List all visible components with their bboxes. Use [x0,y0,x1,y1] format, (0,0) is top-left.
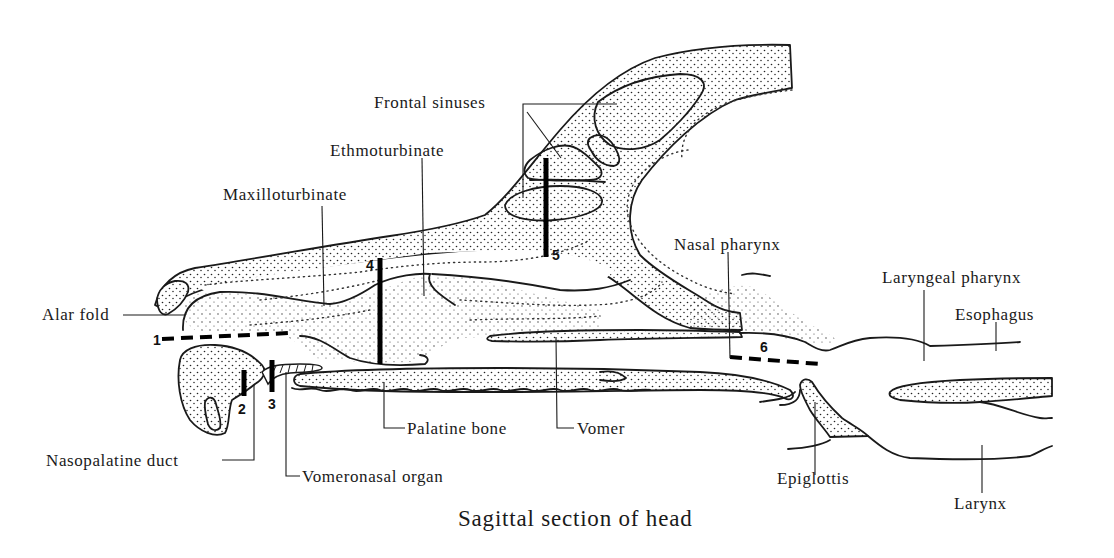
label-vomer: Vomer [577,419,625,438]
label-maxilloturbinate: Maxilloturbinate [223,185,347,204]
label-esophagus: Esophagus [955,305,1034,324]
sagittal-head-diagram: 1 2 3 4 5 6 [0,0,1114,558]
label-epiglottis: Epiglottis [777,469,849,488]
label-frontal-sinuses: Frontal sinuses [374,93,485,112]
section-number-5: 5 [552,247,560,263]
figure-title: Sagittal section of head [458,506,692,531]
label-vomeronasal-organ: Vomeronasal organ [302,467,443,486]
epiglottis [800,379,868,437]
section-number-2: 2 [238,401,246,417]
label-alar-fold: Alar fold [42,305,109,324]
label-nasal-pharynx: Nasal pharynx [674,235,780,254]
incisive-region [178,345,264,435]
laryngeal-lobe [889,378,1052,403]
section-line-6 [730,357,820,364]
section-number-6: 6 [760,339,768,355]
hard-palate [294,368,793,399]
label-laryngeal-pharynx: Laryngeal pharynx [882,268,1021,287]
section-number-3: 3 [268,396,276,412]
label-palatine-bone: Palatine bone [407,419,507,438]
label-nasopalatine-duct: Nasopalatine duct [46,451,178,470]
section-number-4: 4 [366,257,374,273]
section-line-1 [162,333,290,339]
label-larynx: Larynx [954,494,1007,513]
label-ethmoturbinate: Ethmoturbinate [330,141,444,160]
section-number-1: 1 [153,332,161,348]
pharynx-larynx [690,273,1052,459]
